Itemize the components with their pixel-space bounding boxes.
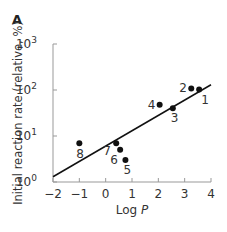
point-label-3: 3: [171, 111, 179, 125]
x-tick-label: 1: [128, 187, 136, 201]
data-points: 12345678: [76, 81, 208, 177]
x-tick-label: −1: [70, 187, 88, 201]
x-axis-label: Log P: [116, 203, 149, 217]
point-label-4: 4: [148, 98, 156, 112]
point-label-8: 8: [76, 147, 84, 161]
data-point-8: [76, 140, 82, 146]
x-tick-label: 2: [155, 187, 163, 201]
x-tick-label: 0: [102, 187, 110, 201]
point-label-7: 7: [103, 144, 111, 158]
x-tick-label: 4: [207, 187, 215, 201]
point-label-2: 2: [179, 81, 187, 95]
data-point-6: [117, 147, 123, 153]
regression-line: [53, 85, 211, 177]
chart-svg: A Initial reaction rate (relative, %) −2…: [0, 0, 227, 232]
y-tick-label: 100: [16, 173, 37, 189]
data-point-7: [113, 140, 119, 146]
y-tick-label: 103: [16, 35, 37, 51]
point-label-5: 5: [123, 163, 131, 177]
x-axis-ticks: −2−101234: [44, 178, 215, 201]
x-tick-label: 3: [181, 187, 189, 201]
y-tick-label: 101: [16, 127, 37, 143]
data-point-4: [157, 102, 163, 108]
point-label-1: 1: [201, 93, 209, 107]
data-point-2: [188, 85, 194, 91]
scatter-chart: A Initial reaction rate (relative, %) −2…: [0, 0, 227, 232]
x-tick-label: −2: [44, 187, 62, 201]
y-tick-label: 102: [16, 81, 37, 97]
point-label-6: 6: [110, 153, 118, 167]
